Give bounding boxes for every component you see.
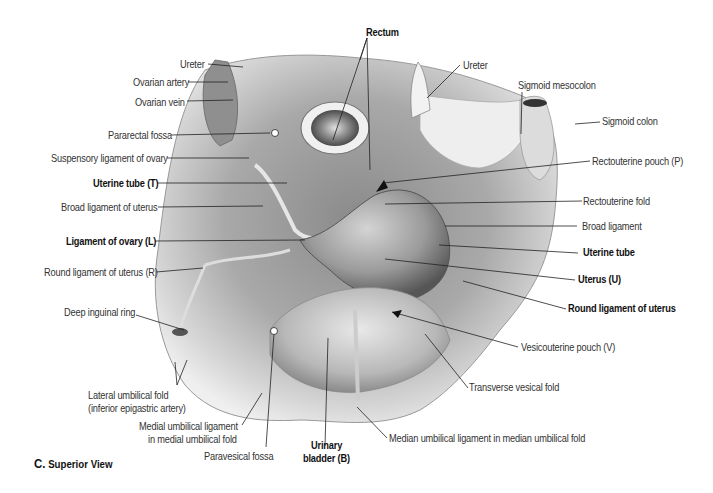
label-ligament-of-ovary: Ligament of ovary (L)	[66, 235, 156, 248]
label-transverse-vesical-fold: Transverse vesical fold	[469, 381, 559, 394]
label-paravesical-fossa: Paravesical fossa	[204, 450, 273, 463]
label-suspensory-ligament: Suspensory ligament of ovary	[51, 152, 168, 165]
label-broad-ligament: Broad ligament	[582, 220, 642, 233]
caption-text: Superior View	[48, 458, 112, 470]
label-rectum: Rectum	[366, 26, 399, 39]
label-urinary-bladder: Urinary	[311, 439, 342, 452]
rectum-shape	[301, 102, 369, 154]
label-medial-umbilical-ligament: Medial umbilical ligament	[139, 420, 238, 433]
label-ovarian-vein: Ovarian vein	[135, 96, 185, 109]
label-uterine-tube: Uterine tube	[583, 246, 635, 259]
label-sigmoid-colon: Sigmoid colon	[602, 115, 658, 128]
label-round-ligament-r: Round ligament of uterus (R)	[44, 266, 158, 279]
label-pararectal-fossa: Pararectal fossa	[108, 129, 172, 142]
label-lateral-umbilical-fold-sub: (inferior epigastric artery)	[88, 402, 186, 415]
label-broad-ligament-of-uterus: Broad ligament of uterus	[61, 201, 157, 214]
label-round-ligament: Round ligament of uterus	[568, 302, 676, 315]
caption-letter: C.	[34, 456, 45, 471]
label-medial-umbilical-fold: in medial umbilical fold	[148, 433, 237, 446]
label-deep-inguinal-ring: Deep inguinal ring	[64, 306, 135, 319]
anatomy-figure: Rectum Ureter Ovarian artery Ovarian vei…	[0, 0, 713, 493]
label-ureter-right: Ureter	[463, 59, 488, 72]
label-urinary-bladder-b: bladder (B)	[303, 452, 350, 465]
figure-caption: C. Superior View	[34, 456, 113, 471]
label-rectouterine-pouch: Rectouterine pouch (P)	[592, 155, 683, 168]
label-median-umbilical-ligament: Median umbilical ligament in median umbi…	[389, 432, 585, 445]
label-sigmoid-mesocolon: Sigmoid mesocolon	[518, 79, 596, 92]
label-vesicouterine-pouch: Vesicouterine pouch (V)	[521, 341, 615, 354]
label-ovarian-artery: Ovarian artery	[133, 76, 189, 89]
label-uterine-tube-t: Uterine tube (T)	[93, 177, 158, 190]
label-rectouterine-fold: Rectouterine fold	[583, 195, 650, 208]
label-ureter-left: Ureter	[180, 58, 205, 71]
label-uterus: Uterus (U)	[578, 273, 621, 286]
label-lateral-umbilical-fold: Lateral umbilical fold	[88, 389, 168, 402]
